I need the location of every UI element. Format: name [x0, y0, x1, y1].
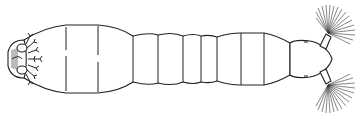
body-outline [24, 25, 290, 93]
larva-drawing: line drawing of an aquatic insect larva,… [0, 0, 363, 118]
antenna-right [320, 69, 331, 84]
antenna-left [320, 34, 331, 49]
left-antennal-fan [316, 5, 355, 44]
right-antennal-fan [316, 74, 355, 113]
